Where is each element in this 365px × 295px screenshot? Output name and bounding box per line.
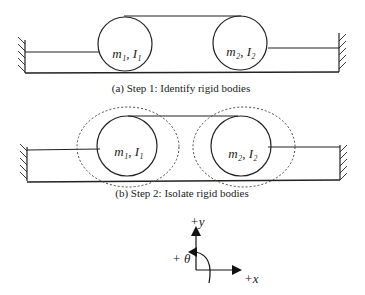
isolation-boundaries — [77, 107, 295, 187]
figure-b — [20, 116, 347, 182]
theta-label: + θ — [172, 251, 191, 266]
ground-beam — [27, 180, 340, 182]
caption-a: (a) Step 1: Identify rigid bodies — [112, 82, 250, 95]
coordinate-axes — [196, 232, 236, 283]
figure-a — [18, 16, 346, 73]
disk-2 — [213, 16, 267, 70]
right-wall-hatch — [339, 34, 346, 69]
disk-1 — [98, 17, 152, 71]
left-link — [27, 149, 100, 150]
disk-2-label: m₂, I₂ — [226, 44, 256, 59]
disk-2-label: m₂, I₂ — [228, 146, 258, 161]
left-wall-hatch — [18, 37, 25, 72]
x-axis-label: +x — [244, 271, 259, 286]
y-axis-label: +y — [190, 214, 205, 229]
ground-beam — [25, 72, 339, 73]
theta-arc — [196, 252, 210, 283]
rigid-body-diagram: m₁, I₁ m₂, I₂ (a) Step 1: Identify rigid… — [0, 0, 365, 295]
caption-b: (b) Step 2: Isolate rigid bodies — [115, 187, 249, 200]
left-wall-hatch — [20, 144, 27, 179]
disk-1-label: m₁, I₁ — [112, 46, 141, 61]
x-arrow-icon — [232, 265, 242, 275]
right-wall-hatch — [340, 145, 347, 180]
disk-1-label: m₁, I₁ — [114, 144, 143, 159]
